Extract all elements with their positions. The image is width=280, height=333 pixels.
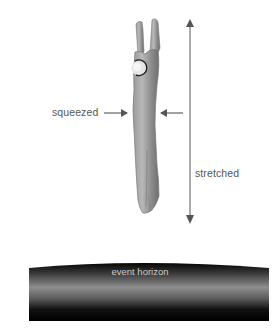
stretched-body <box>132 19 161 213</box>
event-horizon-label: event horizon <box>0 266 280 277</box>
squeezed-label: squeezed <box>52 106 98 118</box>
stretched-label: stretched <box>195 167 239 179</box>
stretch-arrow-icon <box>186 19 194 224</box>
